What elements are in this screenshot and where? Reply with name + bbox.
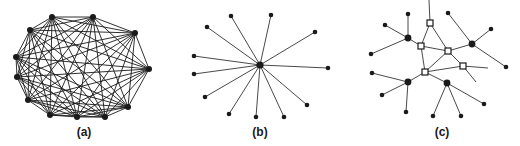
leaf-node [446,11,451,16]
leaf-node [504,65,509,70]
edge [194,65,260,74]
edge [385,25,408,38]
leaf-node [370,71,375,76]
leaf-node [326,66,331,71]
hub-node [469,41,476,48]
leaf-node [192,54,197,59]
leaf-node [406,12,411,17]
edge [260,65,284,117]
node [13,54,19,60]
edge [382,82,408,95]
edge [421,46,448,51]
panel-a-complete-graph [13,14,152,120]
edge [135,33,149,69]
center-node [256,61,263,68]
node [49,14,55,20]
leaf-node [227,112,232,117]
edge [448,44,472,51]
leaf-node [404,110,409,115]
edge [16,17,93,57]
edge [207,27,260,65]
leaf-node [203,95,208,100]
edge [447,83,461,116]
edge [260,65,307,105]
leaf-node [383,23,388,28]
edge [472,29,491,44]
node [74,114,80,120]
hub-node [405,35,412,42]
leaf-node [431,114,436,119]
edge [406,82,408,112]
hub-node [405,79,412,86]
leaf-node [269,13,274,18]
node [132,30,138,36]
leaf-node [192,72,197,77]
node [14,74,20,80]
edge [463,66,488,68]
switch-node [418,43,424,49]
edge [448,13,472,44]
node [25,97,31,103]
leaf-node [459,114,464,119]
switch-node [445,48,451,54]
edge [472,44,506,67]
edge [260,15,271,65]
leaf-node [254,115,259,120]
edge [28,17,93,100]
edge [371,38,408,54]
edge [229,65,260,114]
leaf-node [489,27,494,32]
switch-node [460,63,466,69]
leaf-node [229,14,234,19]
node [27,27,33,33]
leaf-node [380,93,385,98]
edge [447,83,484,104]
node [90,14,96,20]
panel-b-star-graph [192,13,331,120]
node [125,104,131,110]
edge [430,23,448,51]
switch-node [422,69,428,75]
leaf-node [482,102,487,107]
edge [421,46,425,72]
edge [372,73,408,82]
panel-c-caption: (c) [435,125,450,139]
edge [205,65,260,97]
edge [93,17,135,33]
panel-c-hierarchical-graph [369,0,509,118]
leaf-node [313,30,318,35]
switch-node [427,20,433,26]
leaf-node [205,25,210,30]
edge [260,32,315,65]
node [102,114,108,120]
edge [256,65,260,117]
edge [260,65,328,68]
edge [433,83,447,116]
node [47,112,53,118]
leaf-node [305,103,310,108]
edge [194,56,260,65]
node [146,66,152,72]
panel-a-caption: (a) [77,125,92,139]
leaf-node [282,115,287,120]
panel-b-caption: (b) [252,125,267,139]
leaf-node [369,52,374,57]
hub-node [444,80,451,87]
edge [231,16,260,65]
